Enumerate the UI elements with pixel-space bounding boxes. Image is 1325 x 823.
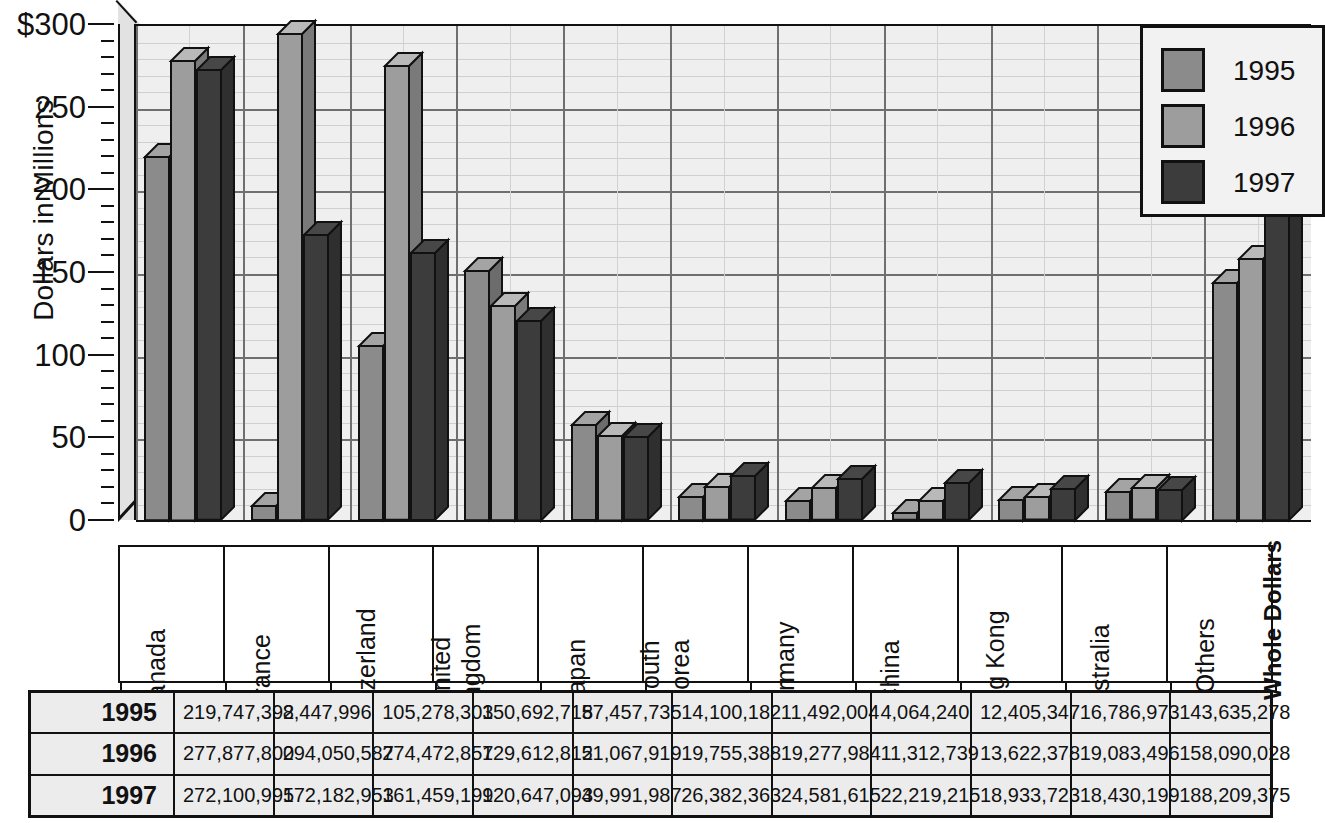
legend-item-label: 1996 bbox=[1233, 107, 1295, 147]
legend-item-label: 1995 bbox=[1233, 51, 1295, 91]
category-cell-canada: Canada bbox=[120, 547, 225, 681]
table-column-connector bbox=[435, 683, 437, 693]
table-row: 1997272,100,995172,182,953161,459,199120… bbox=[31, 775, 1270, 815]
bar-1997-australia bbox=[1158, 477, 1195, 520]
y-axis-minor-tick bbox=[101, 387, 114, 389]
bar-shape bbox=[1051, 476, 1088, 520]
table-row-header: 1996 bbox=[31, 733, 174, 775]
category-cell-all-others: All Others bbox=[1168, 547, 1271, 681]
table-column-connector bbox=[855, 683, 857, 693]
y-axis-minor-tick bbox=[101, 73, 114, 75]
table-column-connector bbox=[645, 683, 647, 693]
legend-item-label: 1997 bbox=[1233, 163, 1295, 203]
y-axis-minor-tick bbox=[101, 288, 114, 290]
y-axis-minor-tick bbox=[101, 420, 114, 422]
table-cell: 19,755,388 bbox=[672, 733, 772, 775]
bar-shape bbox=[731, 463, 768, 520]
bar-1997-china bbox=[945, 470, 982, 520]
legend-swatch-icon bbox=[1161, 104, 1205, 148]
table-cell: 161,459,199 bbox=[373, 775, 473, 815]
table-cell: 294,050,587 bbox=[274, 733, 374, 775]
table-cell: 8,447,996 bbox=[274, 693, 374, 733]
plot-area: 199519961997 bbox=[118, 0, 1311, 545]
table-cell: 120,647,093 bbox=[473, 775, 573, 815]
bar-shape bbox=[197, 57, 234, 520]
table-cell: 49,991,987 bbox=[573, 775, 673, 815]
table-cell: 51,067,919 bbox=[573, 733, 673, 775]
category-cell-hong-kong: Hong Kong bbox=[959, 547, 1064, 681]
table-column-connector bbox=[960, 683, 962, 693]
table-column-connector bbox=[1275, 683, 1277, 693]
category-cell-south-korea: SouthKorea bbox=[644, 547, 749, 681]
bar-1997-south-korea bbox=[731, 463, 768, 520]
y-axis-minor-tick bbox=[101, 238, 114, 240]
y-axis-minor-tick bbox=[101, 139, 114, 141]
y-axis-minor-tick bbox=[101, 205, 114, 207]
y-axis-tick-label: 200 bbox=[34, 174, 86, 205]
category-cell-france: France bbox=[225, 547, 330, 681]
table-cell: 12,405,347 bbox=[971, 693, 1071, 733]
y-axis-major-tick bbox=[88, 436, 114, 438]
bar-1997-hong-kong bbox=[1051, 476, 1088, 520]
chart-legend: 199519961997 bbox=[1140, 25, 1325, 217]
bar-shape bbox=[945, 470, 982, 520]
table-cell: 105,278,303 bbox=[373, 693, 473, 733]
table-column-connector bbox=[1065, 683, 1067, 693]
category-cell-united-kingdom: UnitedKingdom bbox=[434, 547, 539, 681]
table-cell: 22,219,215 bbox=[871, 775, 971, 815]
y-axis-major-tick bbox=[88, 106, 114, 108]
table-cell: 272,100,995 bbox=[174, 775, 274, 815]
bar-shape bbox=[1265, 196, 1302, 520]
table-cell: 18,933,723 bbox=[971, 775, 1071, 815]
y-axis-tick-label: 150 bbox=[34, 257, 86, 288]
y-axis-minor-tick bbox=[101, 403, 114, 405]
bar-1997-france bbox=[304, 222, 341, 520]
y-axis-tick-label: $300 bbox=[17, 9, 86, 40]
table-cell: 19,083,496 bbox=[1071, 733, 1171, 775]
table-cell: 19,277,984 bbox=[772, 733, 872, 775]
bar-1997-united-kingdom bbox=[517, 308, 554, 520]
y-axis-major-tick bbox=[88, 354, 114, 356]
table-column-connector bbox=[225, 683, 227, 693]
category-cell-germany: Germany bbox=[749, 547, 854, 681]
table-row-header: 1997 bbox=[31, 775, 174, 815]
bar-1997-japan bbox=[624, 424, 661, 520]
y-axis-minor-tick bbox=[101, 370, 114, 372]
bar-group-container bbox=[136, 0, 1311, 545]
y-axis: $300250200150100500 bbox=[0, 0, 132, 545]
y-axis-minor-tick bbox=[101, 337, 114, 339]
bar-shape bbox=[517, 308, 554, 520]
table-column-connector bbox=[330, 683, 332, 693]
y-axis-minor-tick bbox=[101, 40, 114, 42]
table-column-connector bbox=[120, 683, 122, 693]
bar-shape bbox=[1158, 477, 1195, 520]
table-cell: 24,581,615 bbox=[772, 775, 872, 815]
y-axis-major-tick bbox=[88, 23, 114, 25]
table-row-header: 1995 bbox=[31, 693, 174, 733]
table-cell: 11,492,004 bbox=[772, 693, 872, 733]
y-axis-tick-label: 50 bbox=[52, 422, 86, 453]
bar-1997-switzerland bbox=[411, 240, 448, 520]
table-cell: 172,182,953 bbox=[274, 775, 374, 815]
bar-shape bbox=[624, 424, 661, 520]
y-axis-minor-tick bbox=[101, 486, 114, 488]
bar-shape bbox=[411, 240, 448, 520]
y-axis-minor-tick bbox=[101, 122, 114, 124]
y-axis-major-tick bbox=[88, 188, 114, 190]
table-cell: 57,457,735 bbox=[573, 693, 673, 733]
bar-shape bbox=[304, 222, 341, 520]
table-cell: 143,635,278 bbox=[1170, 693, 1270, 733]
table-column-connector bbox=[1170, 683, 1172, 693]
table-unit-label: Whole Dollars bbox=[1258, 560, 1288, 700]
category-cell-australia: Australia bbox=[1063, 547, 1168, 681]
table-cell: 16,786,973 bbox=[1071, 693, 1171, 733]
bar-1997-germany bbox=[838, 466, 875, 520]
plot-left-wall bbox=[118, 0, 136, 520]
table-cell: 26,382,363 bbox=[672, 775, 772, 815]
y-axis-tick-label: 250 bbox=[34, 91, 86, 122]
table-cell: 4,064,240 bbox=[871, 693, 971, 733]
table-row: 1995219,747,3928,447,996105,278,303150,6… bbox=[31, 693, 1270, 733]
category-cell-japan: Japan bbox=[539, 547, 644, 681]
category-cell-switzerland: Switzerland bbox=[330, 547, 435, 681]
